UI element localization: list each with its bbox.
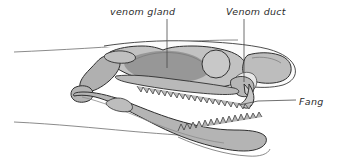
label-venom-duct: Venom duct <box>226 6 286 17</box>
snake-skull-venom-diagram: venom gland Venom duct Fang <box>0 0 339 167</box>
skull-illustration <box>0 0 339 167</box>
label-fang: Fang <box>299 96 324 107</box>
label-venom-gland: venom gland <box>110 6 175 17</box>
supratemporal <box>104 51 135 63</box>
lower-tooth-row <box>178 112 262 131</box>
mandible-coronoid <box>106 98 132 112</box>
mandible <box>74 92 267 151</box>
orbit-circle <box>202 50 230 78</box>
